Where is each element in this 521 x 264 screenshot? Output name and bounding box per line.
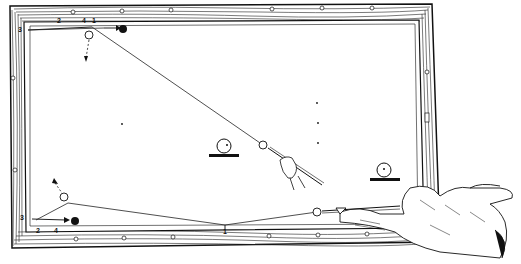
top-object-ball bbox=[119, 25, 127, 33]
top-cue-ball bbox=[85, 31, 93, 39]
top-label-2: 2 bbox=[57, 17, 61, 24]
top-label-1: 1 bbox=[92, 17, 96, 24]
cue-ball-bottom bbox=[313, 208, 321, 216]
bottom-cue-ball bbox=[60, 193, 68, 201]
bottom-label-4: 4 bbox=[54, 227, 58, 234]
top-label-3: 3 bbox=[18, 26, 22, 33]
bottom-label-2: 2 bbox=[36, 227, 40, 234]
billiards-diagram: 3 2 4 1 3 2 4 1 bbox=[0, 0, 521, 264]
top-label-4: 4 bbox=[82, 17, 86, 24]
table-frame bbox=[10, 4, 440, 248]
cue-ball-top bbox=[259, 141, 267, 149]
bottom-label-1: 1 bbox=[223, 228, 227, 235]
bottom-object-ball bbox=[71, 217, 79, 225]
bottom-label-3: 3 bbox=[20, 214, 24, 221]
